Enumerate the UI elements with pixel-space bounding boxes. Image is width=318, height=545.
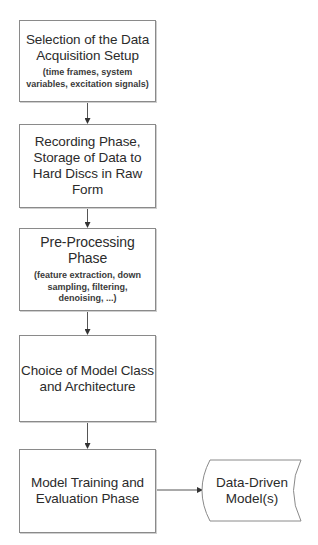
step-title: Choice of Model Class and Architecture (21, 363, 154, 395)
step-pre-processing-phase: Pre-Processing Phase (feature extraction… (19, 228, 156, 311)
step-title: Recording Phase, Storage of Data to Hard… (23, 134, 152, 198)
step-title: Model Training and Evaluation Phase (23, 475, 152, 507)
step-title: Pre-Processing Phase (20, 234, 155, 266)
flowchart: Selection of the Data Acquisition Setup … (0, 0, 318, 545)
output-data-driven-models: Data-Driven Model(s) (206, 460, 298, 522)
step-model-class-choice: Choice of Model Class and Architecture (19, 335, 156, 422)
step-detail: (feature extraction, down sampling, filt… (20, 270, 155, 305)
step-detail: (time frames, system variables, excitati… (20, 67, 155, 90)
step-title: Selection of the Data Acquisition Setup (22, 32, 153, 64)
output-label: Data-Driven Model(s) (216, 475, 288, 507)
step-model-training-evaluation: Model Training and Evaluation Phase (19, 449, 156, 533)
step-recording-phase: Recording Phase, Storage of Data to Hard… (19, 124, 156, 208)
step-data-acquisition-setup: Selection of the Data Acquisition Setup … (19, 20, 156, 102)
